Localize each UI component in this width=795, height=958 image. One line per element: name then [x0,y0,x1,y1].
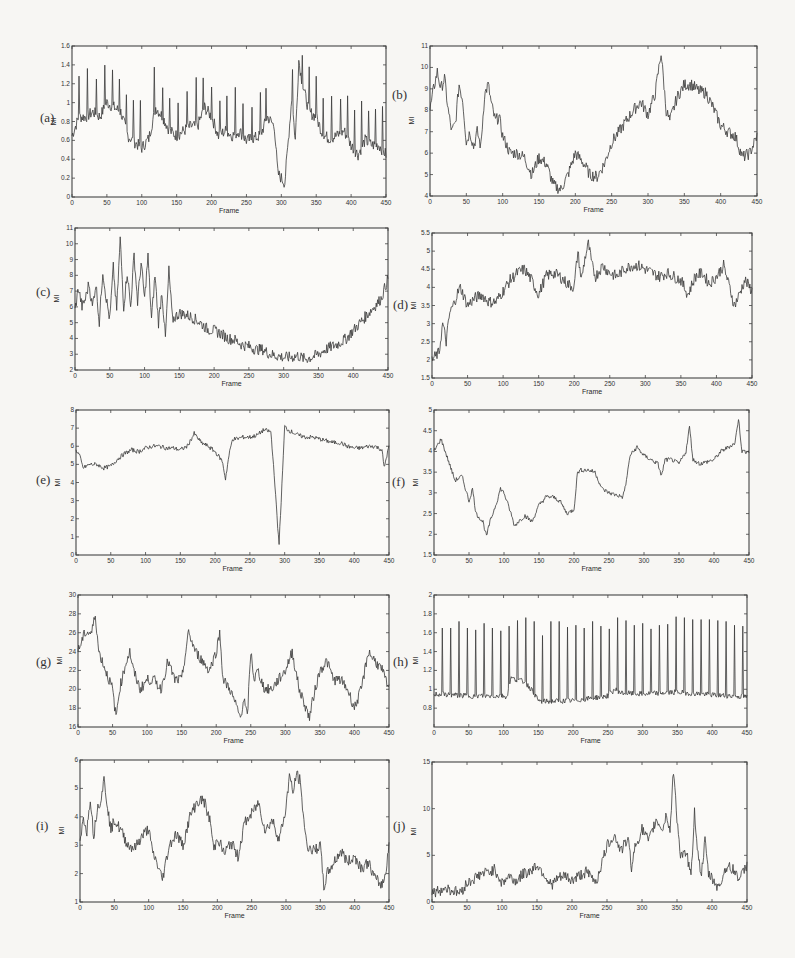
x-tick-label: 200 [211,729,222,736]
y-tick-label: 3.5 [421,302,430,309]
x-tick-label: 250 [244,557,255,564]
x-axis-label: Frame [224,737,244,744]
y-tick-label: 5 [424,171,428,178]
x-tick-label: 450 [742,729,753,736]
x-tick-label: 350 [675,380,686,387]
x-tick-label: 0 [430,904,434,911]
y-tick-label: 3 [426,320,430,327]
y-tick-label: 26 [69,629,77,636]
x-tick-label: 100 [498,729,509,736]
x-tick-label: 450 [381,199,392,206]
y-tick-label: 4 [428,447,432,454]
x-axis-label: Frame [581,737,601,744]
x-tick-label: 50 [463,198,471,205]
x-tick-label: 250 [243,372,254,379]
y-tick-label: 1 [74,898,78,905]
y-tick-label: 0.8 [423,704,432,711]
y-tick-label: 7 [424,128,428,135]
plot-frame [80,760,389,902]
x-tick-label: 100 [136,199,147,206]
y-tick-label: 3 [74,841,78,848]
x-tick-label: 0 [73,372,77,379]
x-tick-label: 50 [106,372,114,379]
x-tick-label: 350 [311,199,322,206]
y-tick-label: 2 [428,530,432,537]
y-tick-label: 7 [70,424,74,431]
y-tick-label: 1.2 [61,80,70,87]
x-tick-label: 150 [534,557,545,564]
y-tick-label: 1.4 [423,648,432,655]
y-tick-label: 0 [66,193,70,200]
y-tick-label: 8 [70,406,74,413]
panel-label-g: (g) [36,654,51,670]
plot-frame [434,595,747,727]
chart-panel-i: 050100150200250300350400450123456FrameMI [80,760,389,902]
x-tick-label: 350 [314,557,325,564]
x-tick-label: 250 [604,380,615,387]
x-tick-label: 450 [384,729,395,736]
y-tick-label: 8 [424,106,428,113]
y-tick-label: 4 [426,283,430,290]
y-tick-label: 5 [426,851,430,858]
y-tick-label: 6 [74,756,78,763]
y-tick-label: 1.6 [61,42,70,49]
x-tick-label: 0 [76,729,80,736]
x-tick-label: 300 [637,729,648,736]
x-tick-label: 200 [209,372,220,379]
x-tick-label: 50 [103,199,111,206]
x-tick-label: 100 [140,557,151,564]
x-tick-label: 50 [111,904,119,911]
y-tick-label: 2.5 [423,510,432,517]
x-tick-label: 300 [639,557,650,564]
y-tick-label: 4 [69,334,73,341]
x-tick-label: 250 [602,729,613,736]
x-axis-label: Frame [584,206,604,213]
y-tick-label: 5 [74,784,78,791]
y-tick-label: 24 [69,648,77,655]
x-tick-label: 50 [107,557,115,564]
y-axis-label: MI [53,295,60,303]
y-tick-label: 6 [424,149,428,156]
line-plot: 050100150200250300350400450012345678 [76,410,389,555]
chart-panel-f: 0501001502002503003504004501.522.533.544… [434,410,749,555]
y-tick-label: 1.5 [423,551,432,558]
y-tick-label: 4.5 [421,265,430,272]
chart-panel-g: 0501001502002503003504004501618202224262… [78,595,389,727]
x-tick-label: 300 [637,904,648,911]
y-axis-label: MI [410,301,417,309]
x-tick-label: 100 [142,729,153,736]
y-tick-label: 5 [70,460,74,467]
y-tick-label: 6 [69,303,73,310]
plot-frame [432,233,752,378]
chart-panel-j: 050100150200250300350400450051015FrameMI [432,762,747,902]
y-axis-label: MI [54,478,61,486]
x-tick-label: 200 [567,904,578,911]
y-tick-label: 9 [69,256,73,263]
x-tick-label: 150 [532,904,543,911]
x-axis-label: Frame [225,912,245,919]
x-tick-label: 0 [74,557,78,564]
y-tick-label: 1.2 [423,666,432,673]
y-tick-label: 2 [69,366,73,373]
x-tick-label: 250 [604,557,615,564]
y-tick-label: 1.8 [423,610,432,617]
x-tick-label: 50 [465,729,473,736]
x-tick-label: 200 [212,904,223,911]
x-tick-label: 250 [241,199,252,206]
x-tick-label: 450 [384,557,395,564]
y-axis-label: MI [410,828,417,836]
x-tick-label: 350 [672,904,683,911]
x-tick-label: 350 [674,557,685,564]
x-tick-label: 250 [245,729,256,736]
panel-label-b: (b) [392,87,407,103]
y-tick-label: 5 [428,406,432,413]
x-axis-label: Frame [219,207,239,214]
y-axis-label: MI [412,657,419,665]
x-tick-label: 300 [640,380,651,387]
x-tick-label: 50 [463,904,471,911]
y-tick-label: 8 [69,271,73,278]
x-tick-label: 150 [533,380,544,387]
x-tick-label: 200 [210,557,221,564]
panel-label-e: (e) [36,472,50,488]
plot-frame [432,762,747,902]
